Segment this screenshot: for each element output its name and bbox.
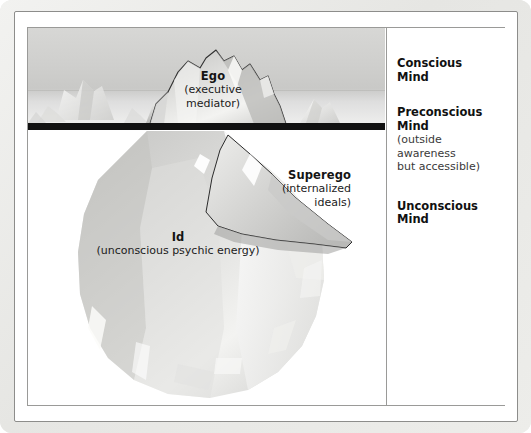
label-id: Id (unconscious psychic energy) [83,231,273,258]
preconscious-note-line2: awareness [397,147,497,161]
mind-levels-panel: Conscious Mind Preconscious Mind (outsid… [386,28,505,405]
preconscious-title-line2: Mind [397,120,497,134]
water-surface-line [28,123,385,130]
label-ego-sub-line1: (executive [167,83,259,97]
iceberg-scene: Ego (executive mediator) Superego (inter… [28,28,385,405]
label-id-sub-line1: (unconscious psychic energy) [83,244,273,258]
panel-item-preconscious: Preconscious Mind (outside awareness but… [397,106,497,174]
label-superego: Superego (internalized ideals) [238,169,351,209]
panel-item-unconscious: Unconscious Mind [397,200,497,227]
preconscious-note-line3: but accessible) [397,160,497,174]
label-ego-heading: Ego [167,70,259,83]
label-id-heading: Id [83,231,273,244]
preconscious-note-line1: (outside [397,133,497,147]
background-iceberg-right [300,99,340,123]
label-superego-sub-line1: (internalized [238,182,351,196]
label-superego-sub-line2: ideals) [238,196,351,210]
label-superego-heading: Superego [238,169,351,182]
label-ego: Ego (executive mediator) [167,70,259,110]
preconscious-title-line1: Preconscious [397,106,497,120]
conscious-title-line1: Conscious [397,57,497,71]
unconscious-title-line1: Unconscious [397,200,497,214]
diagram-content: Ego (executive mediator) Superego (inter… [27,27,505,406]
illustration-frame: Ego (executive mediator) Superego (inter… [0,0,531,433]
panel-item-conscious: Conscious Mind [397,57,497,84]
unconscious-title-line2: Mind [397,213,497,227]
background-icebergs-left [28,80,148,123]
label-ego-sub-line2: mediator) [167,97,259,111]
conscious-title-line2: Mind [397,71,497,85]
